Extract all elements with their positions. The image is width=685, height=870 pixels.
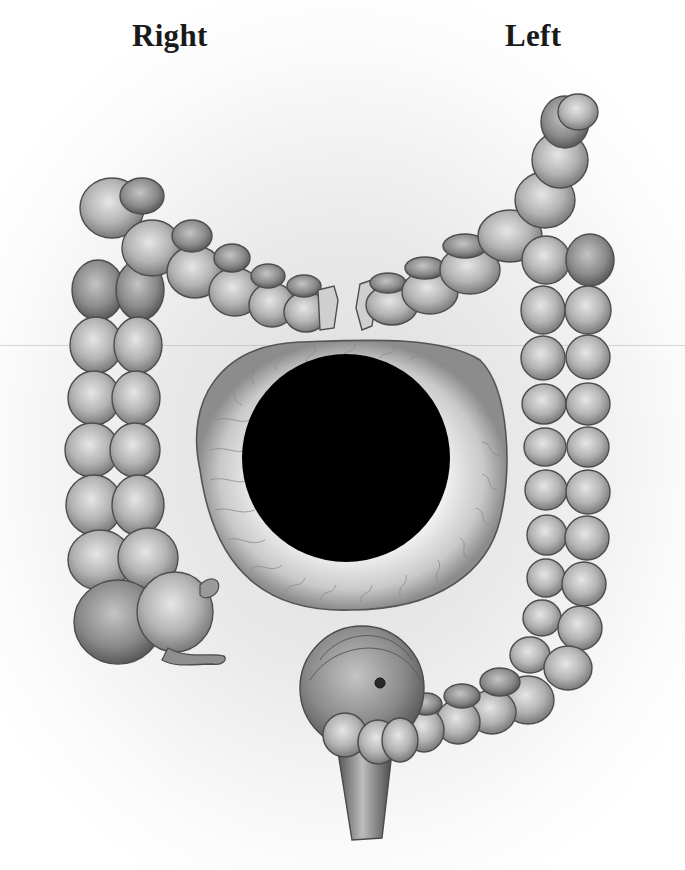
descending-colon <box>510 234 614 690</box>
colon-diagram: Right Left <box>0 0 685 870</box>
lumen-opening <box>242 354 450 562</box>
colon-illustration <box>0 0 685 870</box>
lumen-opening-dot <box>375 678 385 688</box>
transverse-colon-left <box>356 94 598 330</box>
lumen-cross-section <box>197 340 507 610</box>
appendix <box>162 648 225 665</box>
sigmoid-colon <box>404 668 554 752</box>
appendix-tip <box>200 579 219 598</box>
cecum <box>68 528 213 664</box>
ascending-colon <box>65 260 164 535</box>
rectum <box>300 626 424 840</box>
